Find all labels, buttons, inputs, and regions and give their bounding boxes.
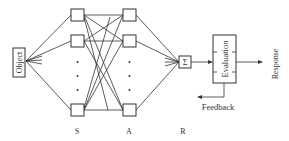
layer-label-r: R [180, 127, 186, 136]
evaluation-box: Evaluation [213, 35, 236, 83]
s-unit [71, 104, 84, 116]
a-unit [123, 9, 136, 21]
diagram-svg: Object Σ Evaluation Response [0, 0, 289, 141]
a-unit [123, 35, 136, 47]
object-label: Object [15, 51, 24, 73]
feedback-label: Feedback [202, 102, 235, 112]
s-unit [71, 9, 84, 21]
connections [26, 15, 179, 110]
layer-label-a: A [126, 127, 132, 136]
a-unit [123, 104, 136, 116]
summation-box: Σ [179, 56, 191, 68]
perceptron-diagram: Object Σ Evaluation Response [0, 0, 289, 141]
s-unit [71, 35, 84, 47]
feedback-arrow [198, 83, 224, 97]
response-label: Response [271, 48, 280, 79]
layer-label-s: S [75, 127, 79, 136]
object-input-box: Object [13, 48, 25, 77]
evaluation-label: Evaluation [220, 40, 230, 78]
sigma-symbol: Σ [183, 58, 188, 67]
